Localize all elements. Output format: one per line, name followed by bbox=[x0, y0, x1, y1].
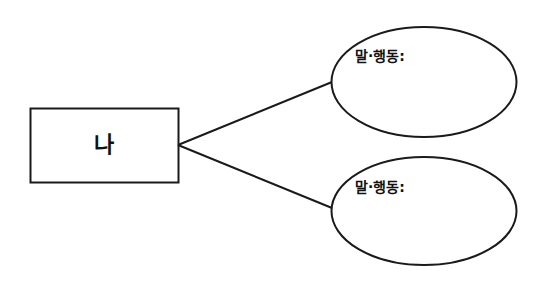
speech-action-bubble-top bbox=[332, 27, 517, 137]
speech-action-bubble-bottom bbox=[332, 157, 517, 265]
self-node-label: 나 bbox=[30, 108, 178, 182]
connector-line-bottom bbox=[178, 145, 332, 208]
connector-line-top bbox=[178, 82, 332, 145]
speech-action-label-top: 말·행동: bbox=[355, 45, 405, 65]
speech-action-label-bottom: 말·행동: bbox=[355, 176, 405, 196]
